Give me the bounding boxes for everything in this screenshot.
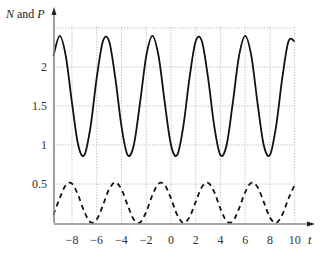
y-title-p: P: [36, 7, 45, 21]
x-tick-label: 0: [168, 233, 174, 247]
series-n-curve: [53, 36, 294, 156]
x-tick-label: 2: [193, 233, 199, 247]
y-tick-label: 0.5: [32, 177, 47, 191]
chart: −8−6−4−202468100.511.52 N and P t: [0, 0, 326, 255]
y-tick-label: 1.5: [32, 99, 47, 113]
x-tick-label: −4: [115, 233, 128, 247]
x-axis-arrow-icon: [307, 222, 315, 227]
series-p-curve: [53, 182, 294, 223]
x-tick-label: −8: [66, 233, 79, 247]
plot-curves: [53, 36, 294, 223]
x-tick-label: −6: [90, 233, 103, 247]
x-axis-title: t: [308, 233, 312, 247]
x-tick-label: 8: [267, 233, 273, 247]
x-tick-label: 4: [217, 233, 223, 247]
x-tick-label: −2: [140, 233, 153, 247]
y-tick-label: 2: [41, 60, 47, 74]
y-axis-arrow-icon: [52, 7, 57, 15]
y-axis-title: N and P: [5, 7, 45, 21]
y-title-and: and: [14, 7, 37, 21]
x-tick-label: 10: [289, 233, 301, 247]
y-tick-label: 1: [41, 138, 47, 152]
x-tick-label: 6: [242, 233, 248, 247]
